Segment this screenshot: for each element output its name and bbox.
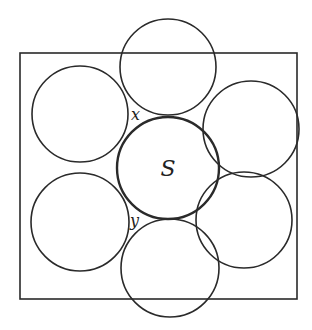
outer-circle-upper-left [32,66,128,162]
outer-circle-upper-right [203,81,299,177]
label-x: x [131,105,140,124]
outer-circle-lower-right [196,172,292,268]
outer-circle-bottom [121,219,219,317]
label-y: y [129,211,140,230]
center-label-s: S [160,156,175,181]
outer-circle-lower-left [31,173,129,271]
outer-circle-top [120,19,216,115]
circle-packing-diagram: S x y [0,0,312,330]
